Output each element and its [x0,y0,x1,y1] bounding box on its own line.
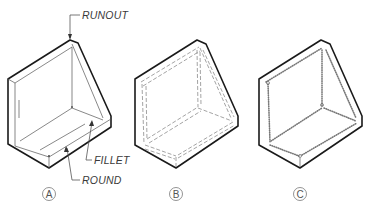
label-round: ROUND [82,174,122,186]
technical-drawing: RUNOUT FILLET ROUND A [0,0,370,215]
figure-c-outline [259,40,362,168]
figure-a: RUNOUT FILLET ROUND A [8,9,131,201]
caption-b: B [173,189,180,200]
figure-b: B [135,40,238,201]
label-runout: RUNOUT [82,9,129,21]
figure-c: C [259,40,362,201]
label-fillet: FILLET [94,154,131,166]
caption-a: A [46,189,53,200]
caption-c: C [296,189,303,200]
